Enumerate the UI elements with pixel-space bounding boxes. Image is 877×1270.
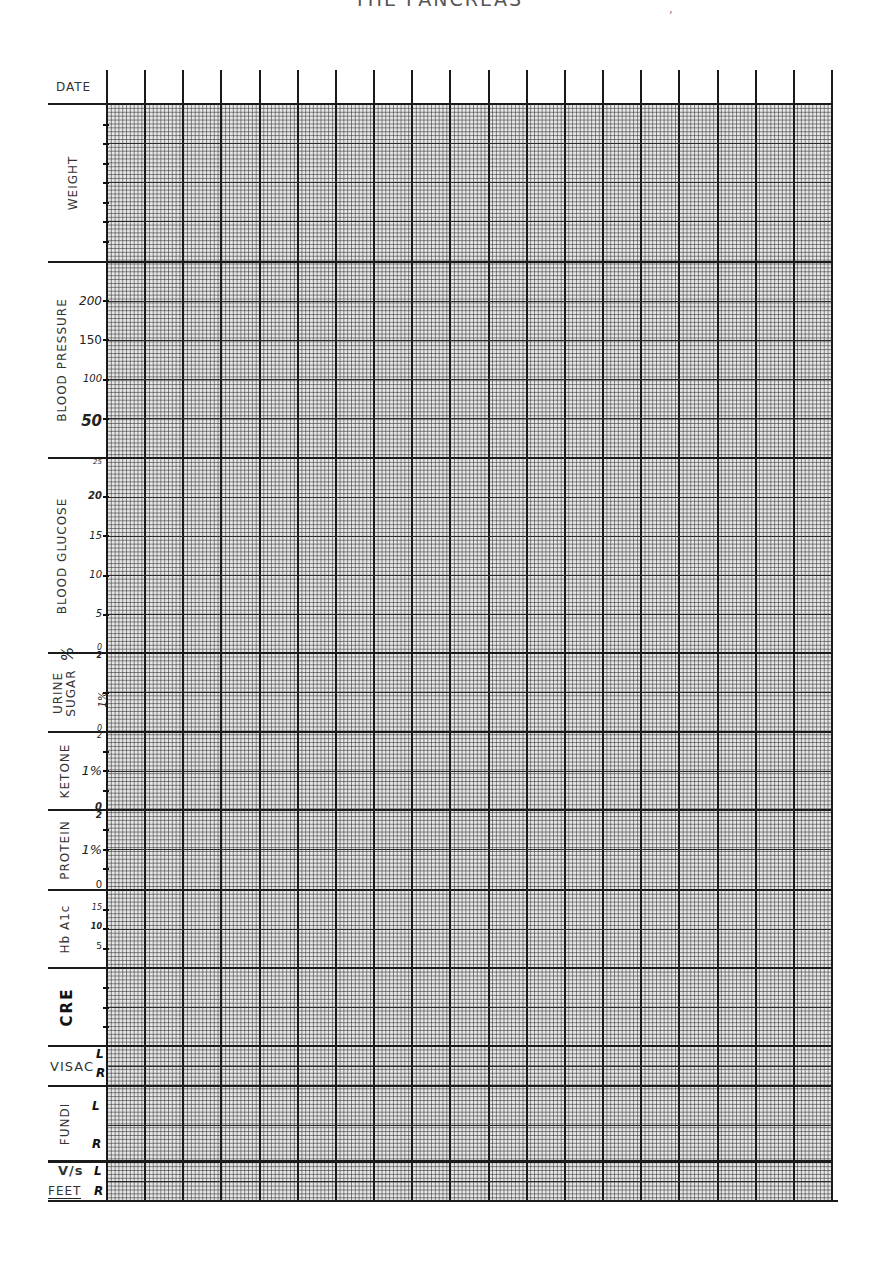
cre-label: CRE xyxy=(59,988,77,1027)
divider-cre xyxy=(48,1045,832,1047)
protein-label: PROTEIN xyxy=(58,820,72,879)
date-cell[interactable] xyxy=(604,72,640,103)
axis-tick xyxy=(103,418,109,420)
vs-label-cell: V/s FEET xyxy=(40,1163,100,1201)
column-line xyxy=(449,70,451,1201)
axis-tick xyxy=(103,221,109,223)
ketone-tick-1: 1% xyxy=(72,763,102,778)
date-cell[interactable] xyxy=(757,72,793,103)
column-line xyxy=(259,70,261,1201)
hba1c-tick-15: 15 xyxy=(72,903,102,912)
chart-bottom xyxy=(48,1200,838,1202)
glucose-tick-15: 15 xyxy=(72,530,102,541)
fundi-label: FUNDI xyxy=(58,1102,72,1144)
date-cell[interactable] xyxy=(108,72,144,103)
major-gridline xyxy=(107,849,832,850)
axis-tick xyxy=(103,909,109,911)
glucose-label-cell: BLOOD GLUCOSE xyxy=(32,458,92,653)
column-line xyxy=(793,70,795,1201)
major-gridline xyxy=(107,929,832,930)
visac-left-label: L xyxy=(96,1047,104,1061)
ketone-tick-2: 2 xyxy=(72,731,102,740)
bp-tick-150: 150 xyxy=(72,333,102,347)
date-cell[interactable] xyxy=(451,72,487,103)
fundi-right-label: R xyxy=(92,1137,101,1151)
urine-tick-2: 2 xyxy=(72,651,102,660)
glucose-label: BLOOD GLUCOSE xyxy=(55,497,69,614)
divider-glucose xyxy=(48,652,832,654)
divider-ketone xyxy=(48,809,832,811)
ketone-label: KETONE xyxy=(58,744,72,799)
column-line xyxy=(755,70,757,1201)
glucose-tick-10: 10 xyxy=(72,569,102,580)
major-gridline xyxy=(107,1181,832,1182)
weight-label: WEIGHT xyxy=(66,156,80,211)
major-gridline xyxy=(107,143,832,144)
major-gridline xyxy=(107,221,832,222)
glucose-tick-5: 5 xyxy=(72,608,102,619)
bp-label: BLOOD PRESSURE xyxy=(55,298,69,422)
bp-tick-200: 200 xyxy=(72,294,102,308)
major-gridline xyxy=(107,1125,832,1126)
urine-tick-1: 1% xyxy=(97,692,108,722)
date-cell[interactable] xyxy=(222,72,258,103)
axis-tick xyxy=(103,300,109,302)
divider-fundi xyxy=(48,1160,832,1163)
major-gridline xyxy=(107,692,832,693)
date-label: DATE xyxy=(56,80,91,94)
axis-tick xyxy=(103,143,109,145)
date-cell[interactable] xyxy=(261,72,297,103)
axis-tick xyxy=(103,948,109,950)
hba1c-label: Hb A1c xyxy=(58,905,72,954)
divider-visac xyxy=(48,1085,832,1087)
date-cell[interactable] xyxy=(375,72,411,103)
date-cell[interactable] xyxy=(184,72,220,103)
major-gridline xyxy=(107,497,832,498)
date-cell[interactable] xyxy=(337,72,373,103)
axis-tick xyxy=(103,241,109,243)
axis-tick xyxy=(103,868,109,870)
axis-tick xyxy=(103,987,109,989)
axis-tick xyxy=(103,202,109,204)
column-line xyxy=(335,70,337,1201)
column-line xyxy=(373,70,375,1201)
divider-protein xyxy=(48,889,832,891)
glucose-tick-25: 25 xyxy=(72,458,102,466)
divider-weight xyxy=(48,261,832,263)
visac-label-cell: VISAC xyxy=(38,1046,94,1086)
date-cell[interactable] xyxy=(490,72,526,103)
hba1c-tick-5: 5 xyxy=(72,941,102,951)
flow-chart: DATE WEIGHT BLOOD PRESSURE 200 150 100 5… xyxy=(0,0,877,1270)
date-cell[interactable] xyxy=(146,72,182,103)
divider-bp xyxy=(48,457,832,459)
column-line xyxy=(144,70,146,1201)
date-cell[interactable] xyxy=(795,72,831,103)
divider-hba1c xyxy=(48,967,832,969)
visac-label: VISAC xyxy=(50,1059,94,1074)
bp-tick-50: 50 xyxy=(72,412,102,430)
axis-tick xyxy=(103,1007,109,1009)
axis-tick xyxy=(103,339,109,341)
protein-tick-1: 1% xyxy=(72,842,102,857)
major-gridline xyxy=(107,301,832,302)
major-gridline xyxy=(107,182,832,183)
axis-tick xyxy=(103,829,109,831)
column-line xyxy=(602,70,604,1201)
major-gridline xyxy=(107,340,832,341)
axis-tick xyxy=(103,379,109,381)
date-cell[interactable] xyxy=(413,72,449,103)
major-gridline xyxy=(107,1007,832,1008)
date-cell[interactable] xyxy=(719,72,755,103)
weight-label-cell: WEIGHT xyxy=(40,104,107,262)
fundi-label-cell: FUNDI xyxy=(40,1086,90,1161)
axis-tick xyxy=(103,182,109,184)
axis-tick xyxy=(103,614,109,616)
date-cell[interactable] xyxy=(680,72,716,103)
date-cell[interactable] xyxy=(299,72,335,103)
date-cell[interactable] xyxy=(642,72,678,103)
axis-tick xyxy=(103,790,109,792)
date-cell[interactable] xyxy=(566,72,602,103)
date-cell[interactable] xyxy=(528,72,564,103)
column-line xyxy=(678,70,680,1201)
axis-tick xyxy=(103,575,109,577)
